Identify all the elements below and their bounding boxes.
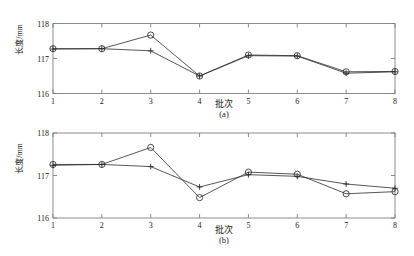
y-tick-label: 118 — [37, 129, 49, 138]
panel-label-b: (b) — [184, 235, 264, 245]
x-tick-label: 6 — [295, 221, 299, 230]
figure: 11611711812345678 长度/mm 批次 (a) 116117118… — [0, 0, 414, 256]
data-point-plus — [148, 48, 154, 54]
y-tick-label: 117 — [37, 55, 49, 64]
subplot-a: 11611711812345678 长度/mm 批次 (a) — [0, 0, 414, 128]
panel-label-a: (a) — [184, 109, 264, 119]
x-tick-label: 7 — [344, 97, 348, 106]
x-tick-label: 2 — [100, 221, 104, 230]
data-point-plus — [343, 181, 349, 187]
data-point-plus — [197, 184, 203, 190]
data-point-plus — [246, 172, 252, 178]
y-axis-label-a: 长度/mm — [13, 12, 24, 68]
x-tick-label: 6 — [295, 97, 299, 106]
x-tick-label: 7 — [344, 221, 348, 230]
y-tick-label: 116 — [37, 90, 49, 99]
x-tick-label: 3 — [149, 97, 153, 106]
x-tick-label: 2 — [100, 97, 104, 106]
y-tick-label: 116 — [37, 214, 49, 223]
series-line-circle — [53, 147, 395, 197]
y-axis-label-b: 长度/mm — [13, 131, 24, 187]
data-point-plus — [392, 185, 398, 191]
data-point-plus — [148, 164, 154, 170]
x-tick-label: 8 — [393, 221, 397, 230]
x-tick-label: 3 — [149, 221, 153, 230]
x-tick-label: 1 — [51, 221, 55, 230]
y-tick-label: 117 — [37, 172, 49, 181]
y-tick-label: 118 — [37, 20, 49, 29]
x-tick-label: 8 — [393, 97, 397, 106]
x-tick-label: 1 — [51, 97, 55, 106]
subplot-b: 11611711812345678 长度/mm 批次 (b) — [0, 125, 414, 256]
series-line-plus — [53, 49, 395, 76]
